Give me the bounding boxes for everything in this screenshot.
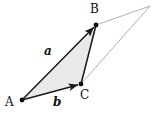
vector-triangle-figure: A B C a b — [0, 0, 157, 119]
vector-label-b: b — [53, 96, 61, 108]
vertex-dot-B — [94, 23, 99, 28]
vertex-label-B: B — [90, 3, 99, 15]
vertex-label-A: A — [5, 96, 14, 108]
vertex-label-C: C — [80, 89, 89, 101]
vertex-dot-A — [20, 98, 25, 103]
figure-canvas — [0, 0, 157, 119]
vector-label-a: a — [44, 45, 52, 57]
vertex-dot-C — [79, 82, 84, 87]
